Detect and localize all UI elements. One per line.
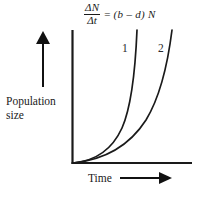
right-arrow-icon — [120, 172, 172, 184]
x-axis-label-text: Time — [88, 172, 112, 184]
right-arrow-head — [159, 172, 172, 184]
plot-area — [0, 0, 205, 200]
x-axis-label: Time — [88, 172, 172, 184]
right-arrow-shaft — [120, 177, 160, 179]
curve-label-2: 2 — [158, 42, 164, 54]
exponential-growth-figure: ΔN Δt = (b – d) N Population size 1 2 Ti… — [0, 0, 205, 200]
curve-label-1: 1 — [122, 42, 128, 54]
